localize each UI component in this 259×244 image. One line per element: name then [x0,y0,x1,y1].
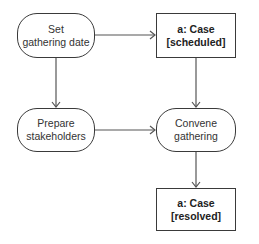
node-label-line1: Convene [175,117,217,130]
object-case-scheduled[interactable]: a: Case [scheduled] [156,13,236,58]
node-label-line1: a: Case [177,23,214,36]
action-set-gathering-date[interactable]: Set gathering date [17,13,95,58]
node-label-line1: Prepare [37,117,74,130]
object-case-resolved[interactable]: a: Case [resolved] [156,188,236,231]
node-label-line1: Set [48,23,64,36]
node-label-line2: [resolved] [171,210,221,223]
node-label-line2: [scheduled] [167,36,226,49]
node-label-line2: gathering [174,130,218,143]
node-label-line2: gathering date [22,36,89,49]
action-prepare-stakeholders[interactable]: Prepare stakeholders [17,108,95,152]
action-convene-gathering[interactable]: Convene gathering [156,108,236,152]
node-label-line2: stakeholders [26,130,86,143]
node-label-line1: a: Case [177,197,214,210]
